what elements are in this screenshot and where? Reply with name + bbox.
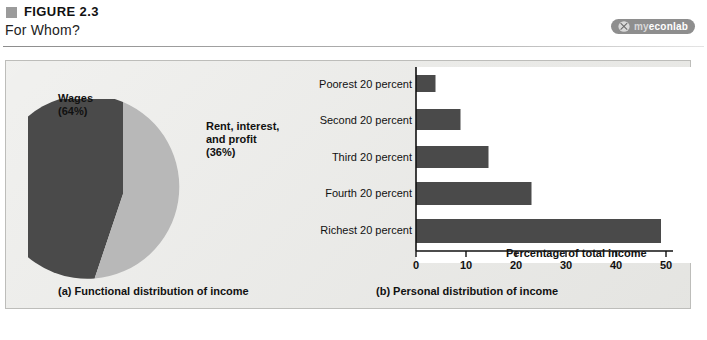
source-note — [0, 329, 707, 340]
figure-panel: Wages (64%) Rent, interest, and profit (… — [5, 60, 691, 309]
brand-prefix: my — [634, 21, 649, 32]
bar-category-label-poorest: Poorest 20 percent — [296, 78, 412, 90]
chart-bar-personal-distribution: Poorest 20 percent Second 20 percent Thi… — [356, 61, 692, 310]
x-axis-title: Percentage of total income — [506, 247, 647, 259]
bar-category-label-fourth: Fourth 20 percent — [296, 187, 412, 199]
pie-label-wages: Wages (64%) — [58, 92, 93, 118]
x-tick-label-50: 50 — [651, 259, 681, 271]
x-tick-label-20: 20 — [501, 259, 531, 271]
pie-label-rent: Rent, interest, and profit (36%) — [206, 120, 279, 159]
myeconlab-x-icon — [618, 21, 630, 32]
chart-pie-functional-distribution: Wages (64%) Rent, interest, and profit (… — [6, 61, 356, 310]
x-tick-label-30: 30 — [551, 259, 581, 271]
figure-label: FIGURE 2.3 — [24, 4, 99, 19]
panel-a-caption: (a) Functional distribution of income — [58, 285, 249, 297]
figure-container: FIGURE 2.3 For Whom? myeconlab Wages (64 — [0, 0, 707, 340]
myeconlab-wordmark: myeconlab — [634, 21, 688, 32]
figure-header: FIGURE 2.3 For Whom? myeconlab — [0, 0, 707, 52]
bar-poorest — [416, 75, 436, 92]
figure-title: For Whom? — [5, 22, 80, 38]
bar-svg — [356, 61, 692, 276]
brand-name: econlab — [649, 21, 688, 32]
square-marker-icon — [6, 7, 17, 18]
myeconlab-badge[interactable]: myeconlab — [611, 19, 695, 34]
bar-fourth — [416, 182, 532, 205]
header-divider — [3, 46, 704, 47]
bar-category-label-third: Third 20 percent — [296, 151, 412, 163]
x-tick-label-0: 0 — [401, 259, 431, 271]
x-tick-label-10: 10 — [451, 259, 481, 271]
x-tick-label-40: 40 — [601, 259, 631, 271]
pie-label-rent-value: (36%) — [206, 146, 279, 159]
bar-third — [416, 146, 489, 168]
bar-category-label-richest: Richest 20 percent — [296, 224, 412, 236]
pie-label-rent-line2: and profit — [206, 133, 279, 146]
panel-b-caption: (b) Personal distribution of income — [376, 285, 558, 297]
pie-label-wages-value: (64%) — [58, 105, 93, 118]
bar-richest — [416, 219, 661, 243]
pie-label-wages-name: Wages — [58, 92, 93, 105]
bar-category-label-second: Second 20 percent — [296, 114, 412, 126]
pie-label-rent-line1: Rent, interest, — [206, 120, 279, 133]
bar-second — [416, 109, 461, 130]
pie-svg — [28, 99, 218, 289]
